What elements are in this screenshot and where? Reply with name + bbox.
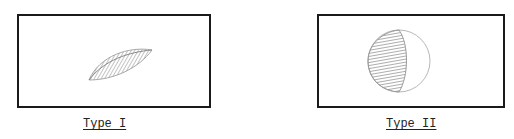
half-circle-shape-icon xyxy=(319,16,503,106)
lens-shape-icon xyxy=(19,16,209,106)
type-1-label: Type I xyxy=(83,117,126,131)
type-1-panel xyxy=(17,14,211,108)
type-2-label: Type II xyxy=(386,117,436,131)
type-2-panel xyxy=(317,14,505,108)
